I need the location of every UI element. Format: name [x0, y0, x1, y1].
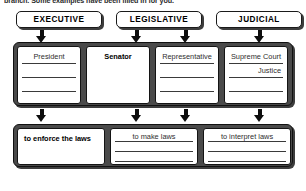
roles-row-frame: President Senator Representative Supreme…	[13, 42, 293, 106]
ruled-line[interactable]: Justice	[229, 64, 283, 78]
ruled-line[interactable]: to make laws	[115, 132, 193, 142]
role-entry: Senator	[91, 53, 145, 60]
instruction-text: branch. Some examples have been filled i…	[4, 0, 302, 5]
branch-header-label: LEGISLATIVE	[130, 15, 189, 24]
power-cell-interpret-laws[interactable]: to interpret laws	[203, 128, 291, 165]
role-cell-president[interactable]: President	[17, 46, 81, 104]
ruled-line[interactable]	[22, 78, 76, 92]
ruled-line[interactable]: Representative	[160, 50, 214, 64]
ruled-line[interactable]	[208, 152, 286, 162]
down-arrow-icon	[180, 109, 191, 122]
role-entry: Supreme Court	[229, 53, 283, 60]
ruled-line[interactable]	[160, 78, 214, 92]
branch-header-legislative: LEGISLATIVE	[116, 11, 202, 28]
role-cell-supreme-court-justice[interactable]: Supreme Court Justice	[224, 46, 288, 104]
ruled-line[interactable]	[208, 142, 286, 152]
power-cell-enforce-laws[interactable]: to enforce the laws	[17, 128, 105, 165]
ruled-line[interactable]	[160, 64, 214, 78]
role-cell-senator[interactable]: Senator	[86, 46, 150, 104]
ruled-line[interactable]	[115, 152, 193, 162]
branch-header-judicial: JUDICIAL	[216, 11, 302, 28]
role-entry: President	[22, 53, 76, 60]
ruled-line[interactable]: President	[22, 50, 76, 64]
ruled-line[interactable]: Supreme Court	[229, 50, 283, 64]
power-entry: to make laws	[115, 133, 193, 140]
powers-row-frame: to enforce the laws to make laws to inte…	[13, 124, 293, 167]
branch-header-row: EXECUTIVE LEGISLATIVE JUDICIAL	[0, 11, 306, 29]
branch-header-label: EXECUTIVE	[34, 15, 85, 24]
ruled-line[interactable]: to interpret laws	[208, 132, 286, 142]
down-arrow-icon	[36, 109, 47, 122]
down-arrow-icon	[254, 109, 265, 122]
ruled-line[interactable]	[229, 78, 283, 92]
role-entry: Justice	[229, 67, 283, 74]
arrow-band-middle	[0, 109, 306, 122]
role-cell-representative[interactable]: Representative	[155, 46, 219, 104]
branch-header-label: JUDICIAL	[238, 15, 280, 24]
down-arrow-icon	[131, 109, 142, 122]
power-cell-make-laws[interactable]: to make laws	[110, 128, 198, 165]
ruled-line[interactable]	[115, 142, 193, 152]
branch-header-executive: EXECUTIVE	[16, 11, 102, 28]
power-entry: to interpret laws	[208, 133, 286, 140]
role-entry: Representative	[160, 53, 214, 60]
ruled-line[interactable]	[22, 64, 76, 78]
power-entry: to enforce the laws	[22, 135, 100, 142]
